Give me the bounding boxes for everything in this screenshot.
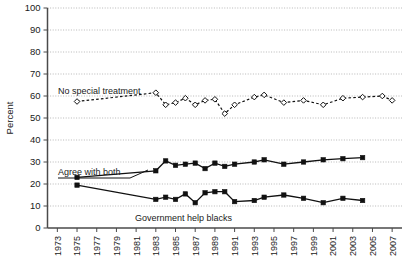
y-tick-label: 70 (30, 68, 41, 79)
data-point (360, 198, 364, 202)
y-tick-label: 60 (30, 90, 41, 101)
x-tick-label: 1999 (309, 236, 319, 256)
data-point (252, 198, 256, 202)
data-point (163, 159, 167, 163)
data-point (389, 98, 395, 104)
y-tick-label: 40 (30, 134, 41, 145)
y-tick-label: 100 (25, 2, 41, 13)
series-annotation-label: Government help blacks (135, 213, 233, 223)
data-point (251, 94, 257, 100)
data-point (360, 94, 366, 100)
x-tick-label: 1991 (230, 236, 240, 256)
data-point (380, 93, 386, 99)
x-tick-label: 1985 (171, 236, 181, 256)
data-point (321, 201, 325, 205)
x-tick-label: 2001 (328, 236, 338, 256)
data-point (213, 190, 217, 194)
data-point (301, 196, 305, 200)
data-point (341, 196, 345, 200)
y-tick-label: 0 (35, 222, 40, 233)
x-tick-label: 1987 (191, 236, 201, 256)
data-point (223, 164, 227, 168)
x-tick-label: 1979 (112, 236, 122, 256)
data-point (282, 193, 286, 197)
x-tick-label: 1977 (92, 236, 102, 256)
x-tick-label: 1997 (289, 236, 299, 256)
x-tick-label: 2003 (348, 236, 358, 256)
data-point (203, 166, 207, 170)
x-tick-label: 1975 (72, 236, 82, 256)
series-group (74, 90, 395, 205)
y-axis-title: Percent (4, 101, 15, 134)
y-tick-label: 20 (30, 178, 41, 189)
data-point (301, 160, 305, 164)
y-tick-label: 80 (30, 46, 41, 57)
data-point (173, 100, 179, 106)
data-point (232, 199, 236, 203)
x-tick-label: 2007 (388, 236, 398, 256)
data-point (183, 162, 187, 166)
data-point (173, 163, 177, 167)
data-point (281, 100, 287, 106)
data-point (232, 162, 236, 166)
x-tick-label: 2005 (368, 236, 378, 256)
data-point (193, 161, 197, 165)
y-axis-labels: 0102030405060708090100 (25, 2, 41, 233)
data-point (154, 197, 158, 201)
data-point (282, 162, 286, 166)
x-tick-label: 1983 (151, 236, 161, 256)
y-tick-label: 50 (30, 112, 41, 123)
line-chart: 0102030405060708090100 19731975197719791… (0, 0, 415, 271)
data-point (163, 195, 167, 199)
series-annotation-label: No special treatment (58, 86, 141, 96)
series-line (77, 185, 363, 203)
data-point (183, 192, 187, 196)
data-point (202, 98, 208, 104)
data-point (193, 201, 197, 205)
data-point (75, 183, 79, 187)
data-point (252, 160, 256, 164)
data-point (321, 158, 325, 162)
x-tick-label: 1995 (269, 236, 279, 256)
data-point (203, 191, 207, 195)
series-annotation-label: Agree with both (58, 167, 121, 177)
annotation-group: No special treatmentAgree with bothGover… (58, 86, 233, 223)
x-tick-label: 1973 (53, 236, 63, 256)
data-point (154, 169, 158, 173)
data-point (341, 157, 345, 161)
y-tick-label: 10 (30, 200, 41, 211)
x-tick-label: 1989 (210, 236, 220, 256)
data-point (301, 98, 307, 104)
y-tick-label: 30 (30, 156, 41, 167)
data-point (173, 197, 177, 201)
x-tick-label: 1993 (250, 236, 260, 256)
data-point (223, 190, 227, 194)
data-point (262, 195, 266, 199)
data-point (320, 102, 326, 108)
data-point (74, 99, 80, 105)
data-point (232, 102, 238, 108)
data-point (261, 92, 267, 98)
data-point (262, 158, 266, 162)
y-tick-label: 90 (30, 24, 41, 35)
data-point (360, 155, 364, 159)
chart-container: 0102030405060708090100 19731975197719791… (0, 0, 415, 271)
x-axis-labels: 1973197519771979198119831985198719891991… (53, 236, 398, 256)
data-point (213, 161, 217, 165)
x-tick-label: 1981 (132, 236, 142, 256)
